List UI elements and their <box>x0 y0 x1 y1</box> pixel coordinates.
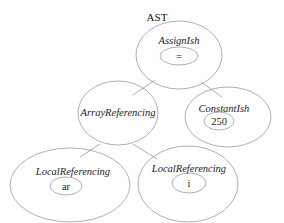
node-localreferencing-ar: LocalReferencing ar <box>10 148 130 222</box>
node-value: = <box>176 51 182 62</box>
node-value: 250 <box>211 116 227 127</box>
node-outer-ellipse <box>185 87 271 147</box>
edge-assign-array <box>133 80 155 95</box>
node-value: i <box>188 178 191 189</box>
node-type-label: AssignIsh <box>158 35 200 46</box>
node-arrayreferencing: ArrayReferencing <box>78 81 158 145</box>
node-type-label: LocalReferencing <box>151 163 226 174</box>
node-value: ar <box>62 181 71 192</box>
node-assignish: AssignIsh = <box>136 21 222 89</box>
node-localreferencing-i: LocalReferencing i <box>138 146 238 222</box>
ast-diagram: AST AssignIsh = ArrayReferencing Constan… <box>0 0 284 223</box>
diagram-title: AST <box>147 11 168 23</box>
edge-array-local-ar <box>80 144 100 157</box>
node-constantish: ConstantIsh 250 <box>185 87 271 147</box>
node-type-label: LocalReferencing <box>35 166 110 177</box>
node-type-label: ArrayReferencing <box>80 107 156 118</box>
